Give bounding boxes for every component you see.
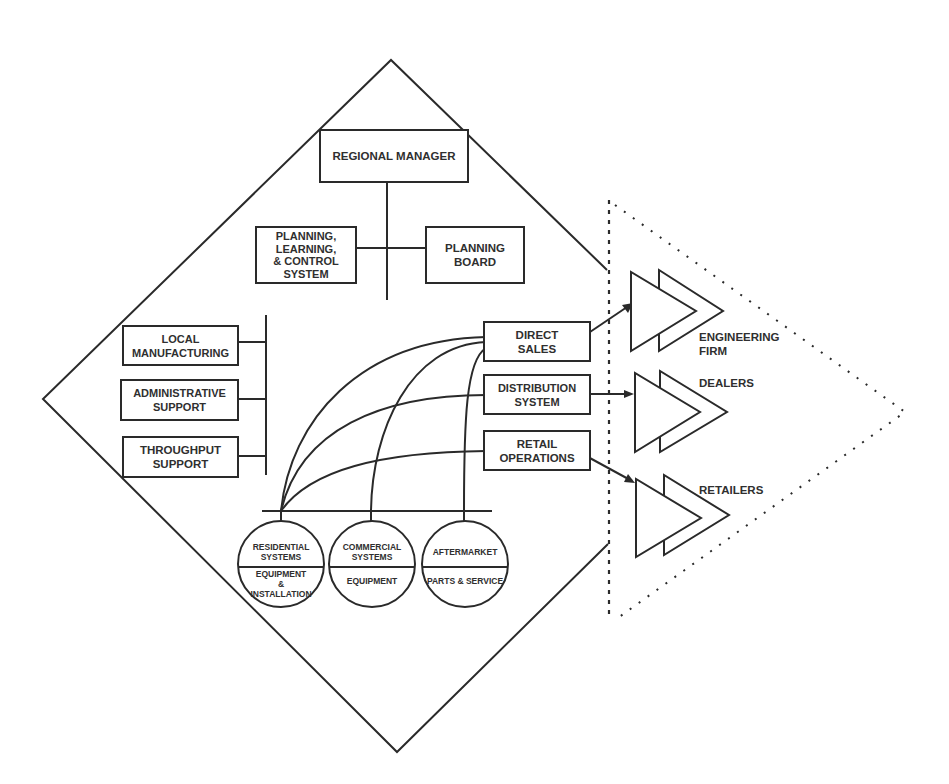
customer-label-engineering: ENGINEERING FIRM [699, 330, 809, 358]
curve-commercial-direct [371, 342, 486, 511]
arrowhead-icon [624, 390, 634, 398]
channel-label-direct: DIRECT SALES [484, 322, 590, 361]
curve-residential-direct [281, 337, 486, 511]
support-label-throughput: THROUGHPUT SUPPORT [123, 437, 238, 477]
channel-label-distribution: DISTRIBUTION SYSTEM [484, 375, 590, 414]
support-label-administrative: ADMINISTRATIVE SUPPORT [121, 380, 238, 420]
curve-residential-distribution [281, 395, 486, 511]
customer-label-retailers: RETAILERS [699, 482, 789, 498]
aftermarket-bottom-label: PARTS & SERVICE [424, 568, 506, 594]
support-label-manufacturing: LOCAL MANUFACTURING [123, 326, 238, 365]
planning-board-label: PLANNING BOARD [426, 227, 524, 283]
regional-manager-label: REGIONAL MANAGER [320, 130, 468, 182]
commercial-bottom-label: EQUIPMENT [331, 568, 413, 594]
channel-label-retail: RETAIL OPERATIONS [484, 431, 590, 470]
planning-system-label: PLANNING, LEARNING, & CONTROL SYSTEM [256, 227, 356, 283]
arrow-direct-to-engineering [590, 305, 630, 332]
customer-label-dealers: DEALERS [699, 375, 789, 391]
commercial-top-label: COMMERCIAL SYSTEMS [331, 538, 413, 566]
residential-bottom-label: EQUIPMENT & INSTALLATION [240, 568, 322, 600]
curve-aftermarket-direct [464, 348, 486, 511]
residential-top-label: RESIDENTIAL SYSTEMS [240, 538, 322, 566]
curve-residential-retail [281, 451, 486, 511]
aftermarket-top-label: AFTERMARKET [424, 538, 506, 566]
